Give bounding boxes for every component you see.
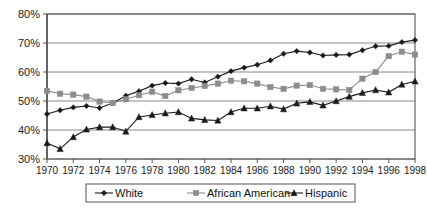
data-point-marker xyxy=(294,48,299,53)
x-tick-label: 1988 xyxy=(272,165,295,176)
chart-legend: WhiteAfrican AmericanHispanic xyxy=(86,184,355,202)
data-point-marker xyxy=(70,134,76,140)
x-axis-tick-labels: 1970197219741976197819801982198419861988… xyxy=(36,165,427,176)
x-tick-label: 1986 xyxy=(246,165,269,176)
x-axis-tick-marks xyxy=(47,159,415,163)
data-point-marker xyxy=(228,78,233,83)
x-tick-label: 1994 xyxy=(351,165,374,176)
data-point-marker xyxy=(360,48,365,53)
data-point-marker xyxy=(228,68,233,73)
data-point-marker xyxy=(399,39,404,44)
series-line xyxy=(47,81,415,149)
y-tick-label: 50% xyxy=(18,95,40,107)
data-point-marker xyxy=(307,82,312,87)
plot-area-border xyxy=(47,14,415,159)
data-point-marker xyxy=(386,43,391,48)
data-point-marker xyxy=(44,140,50,146)
x-tick-label: 1974 xyxy=(88,165,111,176)
x-tick-label: 1972 xyxy=(62,165,85,176)
data-point-marker xyxy=(163,80,168,85)
x-tick-label: 1996 xyxy=(378,165,401,176)
x-tick-label: 1970 xyxy=(36,165,59,176)
legend-label: African American xyxy=(207,187,290,199)
data-point-marker xyxy=(333,87,338,92)
data-point-marker xyxy=(97,105,102,110)
data-point-marker xyxy=(372,87,378,93)
data-point-marker xyxy=(193,190,198,195)
data-point-marker xyxy=(215,74,220,79)
plot-frame xyxy=(47,14,415,159)
data-point-marker xyxy=(281,51,286,56)
y-axis-tick-labels: 80%70%60%50%40%30% xyxy=(18,8,40,165)
y-tick-label: 60% xyxy=(18,66,40,78)
data-point-marker xyxy=(176,81,181,86)
chart-container: 80%70%60%50%40%30% 197019721974197619781… xyxy=(0,0,427,209)
data-point-marker xyxy=(347,52,352,57)
data-point-marker xyxy=(149,83,154,88)
legend-label: White xyxy=(115,187,143,199)
data-point-marker xyxy=(307,50,312,55)
data-point-marker xyxy=(189,85,194,90)
series-hispanic xyxy=(44,78,418,152)
data-point-marker xyxy=(110,100,115,105)
data-point-marker xyxy=(267,103,273,109)
data-point-marker xyxy=(241,65,246,70)
data-point-marker xyxy=(386,53,391,58)
x-tick-label: 1992 xyxy=(325,165,348,176)
data-point-marker xyxy=(268,58,273,63)
x-tick-label: 1998 xyxy=(404,165,427,176)
x-tick-label: 1976 xyxy=(115,165,138,176)
y-tick-label: 30% xyxy=(18,153,40,165)
data-point-marker xyxy=(176,88,181,93)
data-point-marker xyxy=(202,83,207,88)
data-point-marker xyxy=(320,53,325,58)
data-point-marker xyxy=(57,91,62,96)
data-point-marker xyxy=(399,49,404,54)
data-point-marker xyxy=(255,81,260,86)
x-tick-label: 1984 xyxy=(220,165,243,176)
data-point-marker xyxy=(320,86,325,91)
data-point-marker xyxy=(412,52,417,57)
data-point-marker xyxy=(123,97,128,102)
data-point-marker xyxy=(412,37,417,42)
gridlines xyxy=(47,14,415,159)
data-point-marker xyxy=(412,78,418,84)
data-point-marker xyxy=(84,103,89,108)
x-tick-label: 1982 xyxy=(194,165,217,176)
data-point-marker xyxy=(294,83,299,88)
series-african-american xyxy=(44,49,417,106)
data-point-marker xyxy=(373,69,378,74)
data-point-marker xyxy=(268,84,273,89)
data-point-marker xyxy=(360,76,365,81)
data-point-marker xyxy=(44,88,49,93)
x-tick-label: 1990 xyxy=(299,165,322,176)
data-point-marker xyxy=(44,111,49,116)
data-point-marker xyxy=(97,99,102,104)
data-point-marker xyxy=(163,93,168,98)
y-tick-label: 70% xyxy=(18,37,40,49)
data-point-marker xyxy=(281,86,286,91)
data-point-marker xyxy=(373,43,378,48)
line-chart: 80%70%60%50%40%30% 197019721974197619781… xyxy=(0,0,427,209)
data-point-marker xyxy=(149,89,154,94)
data-series-group xyxy=(44,37,418,151)
data-point-marker xyxy=(57,108,62,113)
data-point-marker xyxy=(84,94,89,99)
y-tick-label: 40% xyxy=(18,124,40,136)
x-tick-label: 1978 xyxy=(141,165,164,176)
data-point-marker xyxy=(333,52,338,57)
data-point-marker xyxy=(347,87,352,92)
data-point-marker xyxy=(255,62,260,67)
data-point-marker xyxy=(71,105,76,110)
data-point-marker xyxy=(71,92,76,97)
y-tick-label: 80% xyxy=(18,8,40,20)
data-point-marker xyxy=(241,79,246,84)
data-point-marker xyxy=(215,81,220,86)
legend-label: Hispanic xyxy=(305,187,348,199)
x-tick-label: 1980 xyxy=(167,165,190,176)
data-point-marker xyxy=(136,93,141,98)
data-point-marker xyxy=(189,77,194,82)
